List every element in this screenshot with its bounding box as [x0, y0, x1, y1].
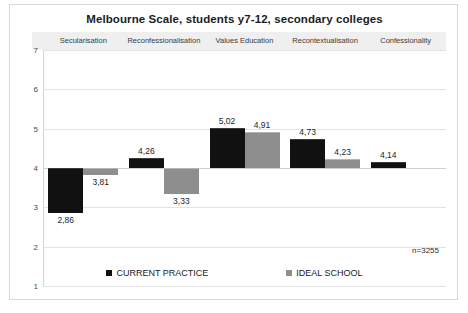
bar-ideal-school-1[interactable] [164, 168, 199, 194]
y-axis-tick-label: 6 [16, 85, 38, 94]
legend-swatch-icon [106, 270, 112, 276]
bar-ideal-school-2[interactable] [245, 132, 280, 168]
gridline-6 [43, 89, 446, 90]
legend-item-ideal-school[interactable]: IDEAL SCHOOL [286, 268, 362, 278]
category-header-band: SecularisationReconfessionalisationValue… [32, 32, 446, 50]
gridline-5 [43, 129, 446, 130]
bar-value-label: 4,23 [334, 147, 351, 157]
bar-current-practice-0[interactable] [48, 168, 83, 213]
sample-size-annotation: n=3255 [412, 246, 439, 255]
y-axis-tick-label: 7 [16, 46, 38, 55]
bar-value-label: 5,02 [219, 116, 236, 126]
gridline-3 [43, 207, 446, 208]
bar-value-label: 4,26 [138, 146, 155, 156]
chart-container: Melbourne Scale, students y7-12, seconda… [9, 4, 458, 300]
bar-value-label: 2,86 [58, 215, 75, 225]
bar-value-label: 4,91 [254, 120, 271, 130]
bar-current-practice-1[interactable] [129, 158, 164, 168]
legend-swatch-icon [286, 270, 292, 276]
bar-value-label: 4,73 [299, 127, 316, 137]
plot-area: 12345672,863,814,263,335,024,914,734,234… [43, 50, 446, 286]
category-label-1: Reconfessionalisation [124, 32, 205, 50]
bar-current-practice-3[interactable] [290, 139, 325, 168]
bar-current-practice-4[interactable] [371, 162, 406, 168]
y-axis-tick-label: 2 [16, 242, 38, 251]
chart-legend: CURRENT PRACTICE IDEAL SCHOOL [10, 268, 459, 278]
y-axis-tick-label: 4 [16, 164, 38, 173]
gridline-7 [43, 50, 446, 51]
category-label-4: Confessionality [365, 32, 446, 50]
bar-ideal-school-0[interactable] [83, 168, 118, 175]
bar-value-label: 4,14 [380, 150, 397, 160]
bar-current-practice-2[interactable] [210, 128, 245, 168]
bar-value-label: 3,81 [93, 177, 110, 187]
y-axis-tick-label: 5 [16, 124, 38, 133]
legend-label: CURRENT PRACTICE [116, 268, 208, 278]
bar-value-label: 3,33 [173, 196, 190, 206]
bar-ideal-school-3[interactable] [325, 159, 360, 168]
chart-title: Melbourne Scale, students y7-12, seconda… [10, 13, 459, 25]
legend-item-current-practice[interactable]: CURRENT PRACTICE [106, 268, 208, 278]
legend-label: IDEAL SCHOOL [296, 268, 362, 278]
category-label-3: Recontextualisation [285, 32, 366, 50]
category-label-2: Values Education [204, 32, 285, 50]
y-axis-tick-label: 3 [16, 203, 38, 212]
category-label-0: Secularisation [43, 32, 124, 50]
gridline-2 [43, 247, 446, 248]
y-axis-tick-label: 1 [16, 282, 38, 291]
gridline-1 [43, 286, 446, 287]
